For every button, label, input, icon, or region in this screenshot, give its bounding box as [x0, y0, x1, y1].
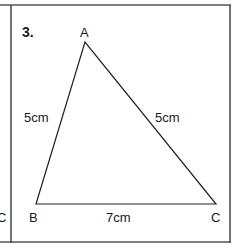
neighbor-vertex-label: C [0, 210, 6, 225]
side-label-ab: 5cm [24, 110, 49, 125]
side-label-bc: 7cm [106, 210, 131, 225]
question-number: 3. [22, 24, 34, 40]
vertex-label-c: C [211, 210, 220, 225]
triangle-abc [36, 42, 216, 204]
side-label-ac: 5cm [155, 110, 180, 125]
vertex-label-a: A [80, 25, 89, 40]
diagram-canvas: C 3. A B C 5cm 5cm 7cm [0, 0, 238, 249]
vertex-label-b: B [29, 210, 38, 225]
